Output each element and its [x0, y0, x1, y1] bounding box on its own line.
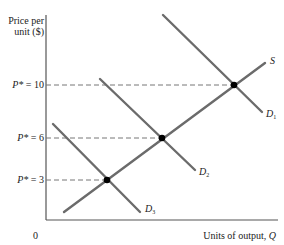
tick-p6-suffix: = 6: [28, 132, 44, 143]
d1-subscript: 1: [273, 114, 276, 120]
x-axis-label-var: Q: [269, 230, 276, 241]
tick-p3-suffix: = 3: [28, 174, 44, 185]
equilibrium-point-2: [159, 135, 166, 142]
tick-p10-prefix: P*: [12, 79, 23, 90]
y-axis-label-line-2: unit ($): [8, 26, 44, 37]
equilibrium-point-1: [231, 82, 238, 89]
y-axis-label: Price per unit ($): [8, 15, 44, 37]
x-axis-label: Units of output, Q: [203, 230, 276, 241]
tick-label-p3: P* = 3: [17, 174, 44, 185]
d3-label: D3: [145, 203, 155, 218]
d3-subscript: 3: [152, 209, 155, 215]
tick-p10-suffix: = 10: [23, 79, 44, 90]
y-axis-label-line-1: Price per: [8, 15, 44, 26]
tick-p6-prefix: P*: [17, 132, 28, 143]
origin-label: 0: [33, 230, 38, 241]
x-axis-label-text: Units of output,: [203, 230, 269, 241]
demand-curve-d1: [163, 15, 262, 112]
d2-subscript: 2: [206, 172, 209, 178]
tick-label-p10: P* = 10: [12, 79, 44, 90]
supply-label: S: [270, 55, 275, 66]
tick-label-p6: P* = 6: [17, 132, 44, 143]
d2-label: D2: [199, 166, 209, 181]
d1-label: D1: [266, 108, 276, 123]
tick-p3-prefix: P*: [17, 174, 28, 185]
equilibrium-point-3: [104, 177, 111, 184]
demand-curve-d3: [53, 124, 140, 212]
